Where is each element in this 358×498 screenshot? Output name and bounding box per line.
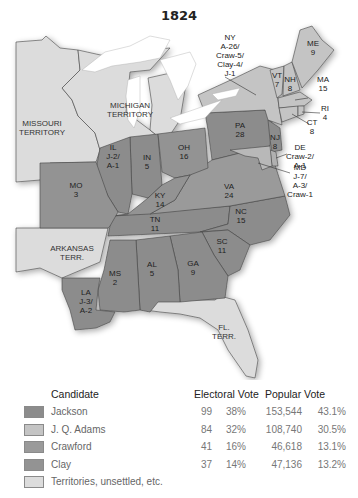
state-label-tn: TN bbox=[150, 215, 161, 224]
state-label-in: 5 bbox=[145, 162, 150, 171]
state-label-ny: A-26/ bbox=[220, 42, 240, 51]
state-label-md: MD bbox=[294, 163, 307, 172]
state-label-nc: 15 bbox=[237, 216, 246, 225]
state-label-ny: Clay-4/ bbox=[217, 60, 243, 69]
state-label-la: A-2 bbox=[80, 306, 93, 315]
territory-label: TERR. bbox=[60, 253, 84, 262]
state-label-mo: MO bbox=[70, 181, 83, 190]
legend-swatch bbox=[24, 441, 44, 453]
territory-label: TERR. bbox=[212, 332, 236, 341]
state-label-vt: 7 bbox=[275, 80, 280, 89]
electoral-votes: 37 bbox=[201, 459, 212, 470]
state-label-ky: 14 bbox=[156, 200, 165, 209]
legend-header-candidate: Candidate bbox=[51, 388, 99, 400]
legend-candidate-name: J. Q. Adams bbox=[51, 424, 105, 435]
electoral-pct: 16% bbox=[226, 441, 246, 452]
electoral-votes: 99 bbox=[201, 406, 212, 417]
state-label-tn: 11 bbox=[151, 224, 160, 233]
popular-votes: 153,544 bbox=[266, 406, 302, 417]
state-label-la: LA bbox=[81, 288, 91, 297]
state-label-ky: KY bbox=[155, 191, 166, 200]
state-label-ma: MA bbox=[317, 75, 330, 84]
election-map: MISSOURITERRITORYMICHIGANTERRITORYARKANS… bbox=[0, 0, 358, 380]
state-label-me: 9 bbox=[311, 48, 316, 57]
state-label-al: AL bbox=[147, 260, 157, 269]
state-label-al: 5 bbox=[150, 269, 155, 278]
florida-territory bbox=[145, 296, 258, 378]
popular-votes: 108,740 bbox=[266, 424, 302, 435]
popular-pct: 13.1% bbox=[318, 441, 346, 452]
state-label-pa: 28 bbox=[236, 130, 245, 139]
electoral-pct: 14% bbox=[226, 459, 246, 470]
state-label-in: IN bbox=[143, 153, 151, 162]
territory-label: ARKANSAS bbox=[50, 244, 94, 253]
electoral-pct: 38% bbox=[226, 406, 246, 417]
territory-label: MICHIGAN bbox=[110, 101, 150, 110]
state-label-md: A-3/ bbox=[293, 181, 308, 190]
state-label-vt: VT bbox=[272, 71, 282, 80]
state-ct bbox=[279, 106, 298, 122]
state-label-ny: Craw-5/ bbox=[216, 51, 245, 60]
state-label-va: 24 bbox=[225, 191, 234, 200]
state-label-ct: 8 bbox=[310, 127, 315, 136]
territory-label: TERRITORY bbox=[107, 110, 154, 119]
state-label-ms: MS bbox=[109, 269, 121, 278]
state-label-me: ME bbox=[307, 39, 319, 48]
legend-swatch bbox=[24, 406, 44, 418]
legend-header-popular: Popular Vote bbox=[265, 388, 325, 400]
state-label-ri: 4 bbox=[323, 113, 328, 122]
territory-label: FL. bbox=[218, 323, 230, 332]
state-label-nc: NC bbox=[235, 207, 247, 216]
legend-candidate-name: Territories, unsettled, etc. bbox=[51, 476, 163, 487]
popular-pct: 43.1% bbox=[318, 406, 346, 417]
popular-votes: 46,618 bbox=[271, 441, 302, 452]
state-label-il: IL bbox=[110, 143, 117, 152]
state-label-il: A-1 bbox=[107, 161, 120, 170]
state-label-va: VA bbox=[224, 182, 235, 191]
legend-swatch bbox=[24, 424, 44, 436]
state-label-nh: 8 bbox=[288, 84, 293, 93]
electoral-votes: 41 bbox=[201, 441, 212, 452]
territory-label: TERRITORY bbox=[19, 128, 66, 137]
state-label-il: J-2/ bbox=[106, 152, 120, 161]
state-label-ma: 15 bbox=[319, 84, 328, 93]
state-label-ct: CT bbox=[307, 118, 318, 127]
state-label-mo: 3 bbox=[74, 190, 79, 199]
state-label-sc: 11 bbox=[218, 246, 227, 255]
state-label-ny: NY bbox=[224, 33, 236, 42]
popular-pct: 13.2% bbox=[318, 459, 346, 470]
state-label-de: DE bbox=[294, 143, 305, 152]
legend-swatch bbox=[24, 476, 44, 488]
legend-candidate-name: Clay bbox=[51, 459, 71, 470]
state-label-md: J-7/ bbox=[293, 172, 307, 181]
state-label-pa: PA bbox=[235, 121, 246, 130]
legend-candidate-name: Crawford bbox=[51, 441, 92, 452]
state-label-nj: NJ bbox=[270, 133, 280, 142]
popular-votes: 47,136 bbox=[271, 459, 302, 470]
legend-candidate-name: Jackson bbox=[51, 406, 88, 417]
territory-label: MISSOURI bbox=[22, 119, 62, 128]
state-label-nj: 8 bbox=[273, 142, 278, 151]
state-ri bbox=[298, 106, 304, 116]
state-label-ny: J-1 bbox=[224, 69, 236, 78]
state-label-oh: OH bbox=[178, 143, 190, 152]
electoral-votes: 84 bbox=[201, 424, 212, 435]
state-label-ms: 2 bbox=[113, 278, 118, 287]
state-label-de: Craw-2/ bbox=[286, 152, 315, 161]
legend-swatch bbox=[24, 459, 44, 471]
legend: Candidate Electoral Vote Popular Vote Ja… bbox=[0, 384, 358, 498]
state-label-ga: GA bbox=[187, 259, 199, 268]
electoral-pct: 32% bbox=[226, 424, 246, 435]
state-label-ri: RI bbox=[321, 104, 329, 113]
popular-pct: 30.5% bbox=[318, 424, 346, 435]
state-label-oh: 16 bbox=[180, 152, 189, 161]
state-label-nh: NH bbox=[284, 75, 296, 84]
state-label-sc: SC bbox=[216, 237, 227, 246]
state-label-ga: 9 bbox=[191, 268, 196, 277]
state-label-md: Craw-1 bbox=[287, 190, 313, 199]
state-label-la: J-3/ bbox=[79, 297, 93, 306]
legend-header-electoral: Electoral Vote bbox=[194, 388, 259, 400]
